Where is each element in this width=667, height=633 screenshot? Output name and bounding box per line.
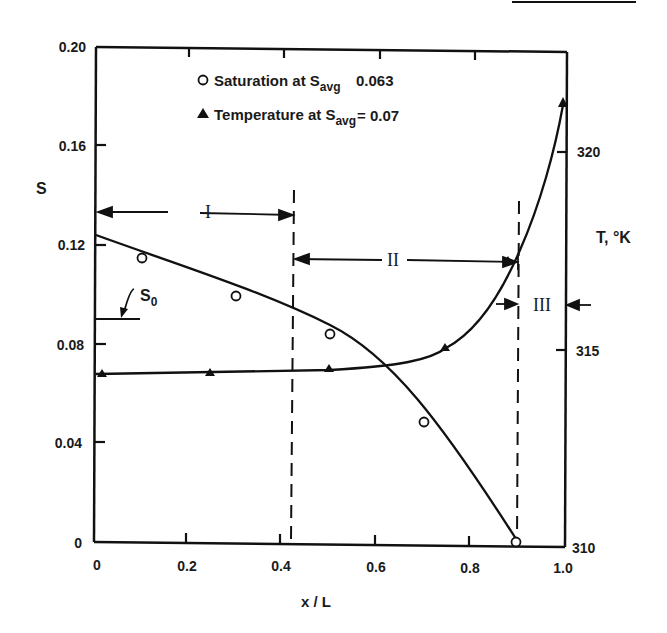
legend-temperature-value: = 0.07 — [357, 107, 399, 124]
region-label-III: III — [533, 295, 551, 315]
y-left-axis-label: S — [36, 180, 47, 197]
x-tick-1.0: 1.0 — [553, 560, 573, 576]
x-tick-0.2: 0.2 — [177, 558, 197, 574]
x-tick-0.4: 0.4 — [271, 558, 291, 574]
region-boundaries — [291, 190, 519, 540]
region-label-II: II — [387, 250, 399, 270]
x-axis-label: x / L — [301, 593, 331, 610]
y-right-axis-label: T, °K — [596, 229, 631, 246]
y-tick-0: 0 — [74, 535, 82, 551]
s0-annotation: S0 — [96, 287, 158, 319]
x-tick-labels: 0 0.2 0.4 0.6 0.8 1.0 — [93, 557, 573, 576]
legend: Saturation at Savg 0.063 Temperature at … — [197, 72, 399, 128]
y-right-tick-labels: 320 315 310 — [572, 144, 601, 556]
s0-label: S0 — [140, 287, 158, 309]
t-tick-315: 315 — [576, 343, 600, 359]
legend-saturation-value: 0.063 — [356, 72, 394, 89]
y-tick-0.20: 0.20 — [59, 39, 86, 55]
y-tick-0.04: 0.04 — [55, 435, 82, 451]
y-tick-0.08: 0.08 — [57, 337, 84, 353]
t-tick-320: 320 — [577, 144, 601, 160]
x-tick-0: 0 — [93, 557, 101, 573]
y-left-tick-labels: 0.20 0.16 0.12 0.08 0.04 0 — [55, 39, 86, 551]
t-tick-310: 310 — [572, 540, 596, 556]
x-tick-0.8: 0.8 — [460, 560, 480, 576]
y-tick-0.16: 0.16 — [59, 138, 86, 154]
saturation-curve — [96, 235, 518, 542]
chart: 0.20 0.16 0.12 0.08 0.04 0 320 315 310 0… — [0, 0, 667, 633]
region-label-I: I — [205, 202, 211, 222]
x-tick-0.6: 0.6 — [366, 559, 386, 575]
legend-triangle-icon — [197, 108, 209, 118]
legend-temperature-label: Temperature at Savg — [214, 106, 356, 128]
y-tick-0.12: 0.12 — [58, 237, 85, 253]
legend-circle-icon — [199, 76, 208, 85]
legend-saturation-label: Saturation at Savg — [214, 72, 341, 94]
saturation-markers — [138, 254, 521, 547]
